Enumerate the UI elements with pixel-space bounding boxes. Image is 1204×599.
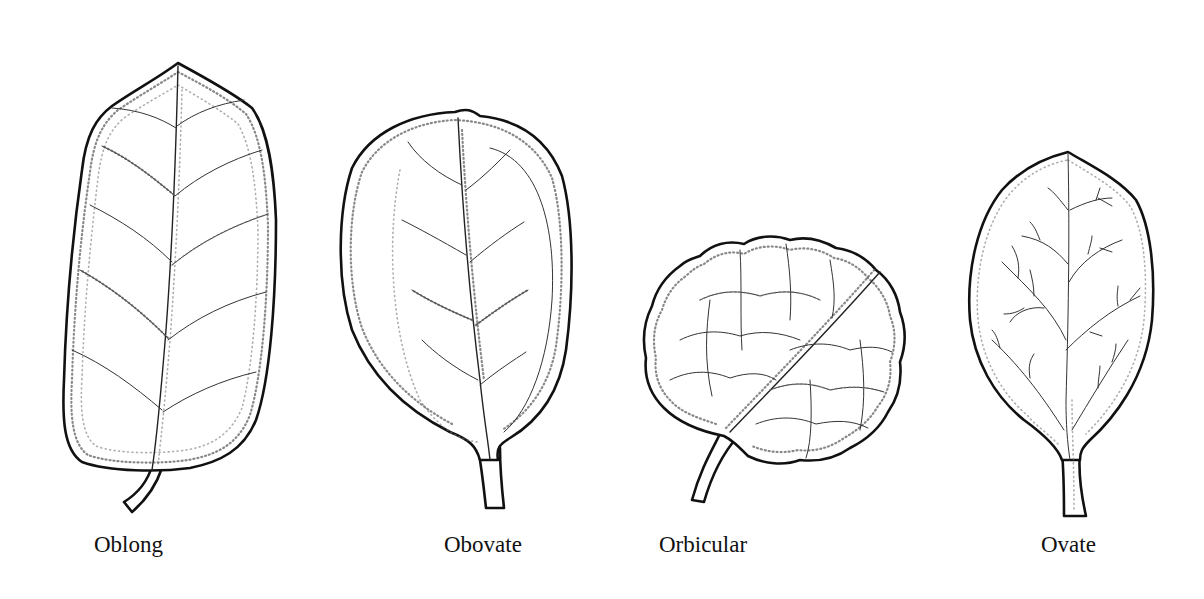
- orbicular-leaf-drawing: [644, 237, 905, 502]
- ovate-leaf-drawing: [969, 152, 1153, 516]
- orbicular-label: Orbicular: [659, 533, 747, 556]
- obovate-leaf-drawing: [341, 110, 572, 508]
- ovate-label: Ovate: [1041, 533, 1096, 556]
- leaf-illustrations: [0, 0, 1204, 599]
- obovate-label: Obovate: [444, 533, 522, 556]
- oblong-leaf-drawing: [63, 63, 276, 512]
- leaf-shapes-diagram: Oblong Obovate Orbicular Ovate: [0, 0, 1204, 599]
- oblong-label: Oblong: [94, 533, 163, 556]
